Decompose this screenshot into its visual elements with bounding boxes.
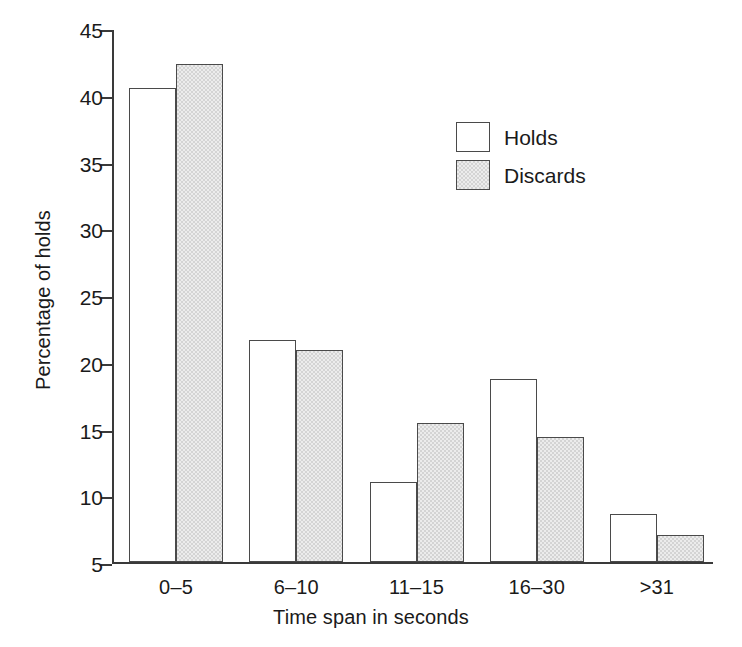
- bar-chart-figure: Percentage of holds 51015202530354045 0–…: [0, 0, 742, 647]
- legend-item-holds: Holds: [456, 118, 586, 156]
- bar-holds-3: [490, 379, 537, 562]
- bar-discards-2: [417, 423, 464, 562]
- x-axis-tick-label: 0–5: [159, 576, 193, 599]
- y-axis-tick-label: 25: [80, 287, 103, 308]
- y-axis-line: [112, 30, 114, 564]
- x-axis-tick-label: 6–10: [274, 576, 319, 599]
- y-axis-tick-label: 45: [80, 20, 103, 41]
- bar-discards-1: [296, 350, 343, 562]
- bar-discards-3: [537, 437, 584, 562]
- y-axis-tick-label: 35: [80, 153, 103, 174]
- legend-swatch-discards-icon: [456, 160, 490, 190]
- y-axis-tick-label: 30: [80, 220, 103, 241]
- legend-item-discards: Discards: [456, 156, 586, 194]
- bar-discards-0: [176, 64, 223, 562]
- y-axis-tick-label: 20: [80, 353, 103, 374]
- plot-area: 51015202530354045 0–56–1011–1516–30>31: [112, 30, 713, 564]
- x-axis-line: [112, 562, 713, 564]
- legend-label-holds: Holds: [504, 127, 558, 148]
- bar-holds-0: [129, 88, 176, 562]
- bar-holds-2: [370, 482, 417, 562]
- y-axis-tick-label: 10: [80, 487, 103, 508]
- bar-holds-4: [610, 514, 657, 562]
- y-axis-tick-label: 5: [91, 554, 103, 575]
- x-axis-tick-label: 16–30: [508, 576, 565, 599]
- x-axis-tick-label: 11–15: [389, 576, 444, 599]
- y-axis-tick-label: 40: [80, 86, 103, 107]
- legend-swatch-holds-icon: [456, 122, 490, 152]
- bar-discards-4: [657, 535, 704, 562]
- bar-holds-1: [249, 340, 296, 562]
- x-axis-title: Time span in seconds: [0, 606, 742, 629]
- legend-label-discards: Discards: [504, 165, 586, 186]
- y-axis-tick-label: 15: [80, 420, 103, 441]
- x-axis-tick-label: >31: [640, 576, 675, 599]
- y-axis-title: Percentage of holds: [28, 30, 58, 570]
- chart-legend: Holds Discards: [456, 118, 586, 194]
